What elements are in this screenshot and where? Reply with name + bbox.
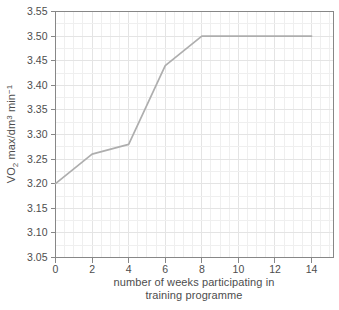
y-axis-label-part: max/dm <box>5 120 17 163</box>
x-tick-label: 14 <box>306 263 318 275</box>
y-axis-label-part: −1 <box>5 85 14 94</box>
y-tick-label: 3.35 <box>27 103 48 115</box>
y-tick-label: 3.10 <box>27 226 48 238</box>
y-tick-label: 3.45 <box>27 54 48 66</box>
y-axis-label-part: 3 <box>5 115 14 120</box>
y-tick-label: 3.15 <box>27 202 48 214</box>
x-tick-label: 2 <box>89 263 95 275</box>
x-axis-label: number of weeks participating in trainin… <box>55 276 333 302</box>
y-axis-label: VO2 max/dm3 min−1 <box>5 85 17 184</box>
x-tick-label: 6 <box>162 263 168 275</box>
x-tick-label: 12 <box>269 263 281 275</box>
figure: 3.053.103.153.203.253.303.353.403.453.50… <box>0 0 339 310</box>
x-axis-label-line1: number of weeks participating in <box>55 276 333 289</box>
x-tick-label: 4 <box>126 263 132 275</box>
y-tick-label: 3.50 <box>27 30 48 42</box>
chart-svg: 3.053.103.153.203.253.303.353.403.453.50… <box>0 0 339 310</box>
y-tick-label: 3.05 <box>27 251 48 263</box>
y-tick-label: 3.30 <box>27 128 48 140</box>
x-axis-label-line2: training programme <box>55 289 333 302</box>
y-axis-label-part: 2 <box>11 163 20 168</box>
y-tick-label: 3.20 <box>27 177 48 189</box>
x-tick-label: 0 <box>53 263 59 275</box>
x-tick-label: 10 <box>233 263 245 275</box>
x-tick-label: 8 <box>199 263 205 275</box>
y-axis-label-part: VO <box>5 167 17 183</box>
y-axis-label-part: min <box>5 94 17 115</box>
y-tick-label: 3.55 <box>27 5 48 17</box>
y-tick-label: 3.40 <box>27 79 48 91</box>
y-tick-label: 3.25 <box>27 153 48 165</box>
